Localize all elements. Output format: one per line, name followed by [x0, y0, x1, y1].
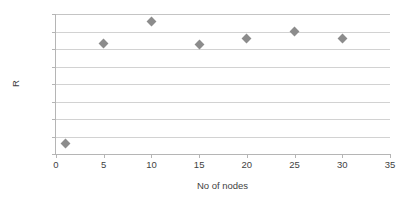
- x-axis-tick: [295, 154, 296, 158]
- y-axis-tick: [52, 84, 56, 85]
- x-axis-tick: [199, 154, 200, 158]
- gridline-horizontal: [56, 67, 390, 68]
- x-axis-tick: [342, 154, 343, 158]
- data-point-marker: [290, 26, 300, 36]
- x-axis-tick: [247, 154, 248, 158]
- x-axis-tick-label: 15: [184, 160, 214, 170]
- data-point-marker: [99, 39, 109, 49]
- data-point-marker: [61, 139, 71, 149]
- data-point-marker: [242, 34, 252, 44]
- y-axis-tick: [52, 137, 56, 138]
- gridline-horizontal: [56, 49, 390, 50]
- x-axis-tick-label: 0: [41, 160, 71, 170]
- data-point-marker: [194, 40, 204, 50]
- gridline-horizontal: [56, 119, 390, 120]
- x-axis-tick-label: 30: [327, 160, 357, 170]
- x-axis-tick: [151, 154, 152, 158]
- scatter-chart: 0.960.9650.970.9750.980.9850.990.9951051…: [0, 0, 408, 200]
- y-axis-tick: [52, 14, 56, 15]
- x-axis-title: No of nodes: [55, 180, 390, 191]
- y-axis-tick: [52, 102, 56, 103]
- x-axis-tick: [390, 154, 391, 158]
- gridline-horizontal: [56, 137, 390, 138]
- x-axis-tick-label: 35: [375, 160, 405, 170]
- gridline-horizontal: [56, 84, 390, 85]
- x-axis-tick: [56, 154, 57, 158]
- plot-area: 0.960.9650.970.9750.980.9850.990.9951051…: [55, 14, 390, 155]
- y-axis-tick: [52, 32, 56, 33]
- x-axis-tick-label: 5: [89, 160, 119, 170]
- y-axis-tick: [52, 119, 56, 120]
- gridline-horizontal: [56, 32, 390, 33]
- gridline-horizontal: [56, 102, 390, 103]
- x-axis-tick-label: 20: [232, 160, 262, 170]
- data-point-marker: [146, 16, 156, 26]
- x-axis-tick-label: 25: [280, 160, 310, 170]
- data-point-marker: [337, 34, 347, 44]
- x-axis-tick-label: 10: [136, 160, 166, 170]
- y-axis-title: R: [10, 77, 21, 91]
- gridline-horizontal: [56, 14, 390, 15]
- y-axis-tick: [52, 49, 56, 50]
- y-axis-tick: [52, 67, 56, 68]
- x-axis-tick: [104, 154, 105, 158]
